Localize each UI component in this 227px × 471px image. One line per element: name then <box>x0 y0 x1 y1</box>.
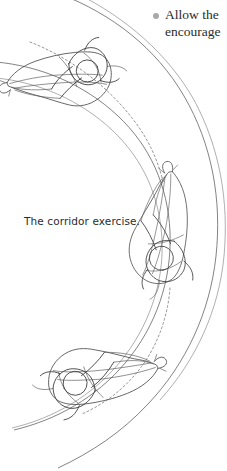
rider-leg-right-bottom <box>40 367 60 382</box>
horse-body-bottom <box>38 320 162 424</box>
reins-top <box>11 73 51 104</box>
rider-top <box>7 36 120 121</box>
inner-corridor-wall-shadow <box>0 78 162 428</box>
bullet-marker-icon <box>153 13 159 19</box>
rider-leg-right-top <box>100 73 119 86</box>
figure-page: Allow the encourage The corridor exercis… <box>0 0 227 471</box>
rider-arm-right-middle <box>141 219 156 251</box>
horse-hindquarters-top <box>84 50 103 84</box>
bullet-note: Allow the encourage <box>150 6 227 40</box>
horse-hindquarters-bottom <box>57 371 78 406</box>
bullet-note-line-2: encourage <box>150 23 227 40</box>
corridor-walls <box>0 0 225 468</box>
corridor-exercise-figure <box>0 0 227 471</box>
horse-tail-top <box>107 60 126 77</box>
dashed-track-lower <box>82 288 170 414</box>
horse-muzzle-top <box>0 82 11 95</box>
figure-caption: The corridor exercise. <box>24 214 140 228</box>
horse-ear-left-middle <box>173 165 179 170</box>
dashed-track-upper <box>30 42 163 182</box>
horse-tail-bottom <box>33 378 54 396</box>
horse-and-rider-bottom <box>26 315 172 429</box>
inner-corridor-wall <box>0 62 170 430</box>
horse-neck-under-top <box>14 53 106 119</box>
horse-and-rider-middle <box>117 160 198 302</box>
rider-arm-right-bottom <box>77 352 110 375</box>
horse-neck-under-bottom <box>53 331 151 403</box>
bullet-note-line-1: Allow the <box>150 6 227 23</box>
horse-muzzle-middle <box>162 161 173 173</box>
